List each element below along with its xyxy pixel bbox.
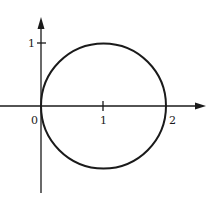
- x-tick-label-2: 2: [169, 114, 176, 127]
- x-tick-label-1: 1: [100, 114, 107, 127]
- x-axis-arrow-icon: [195, 103, 206, 110]
- origin-label: 0: [31, 114, 38, 127]
- circle-diagram: 1 0 1 2: [0, 0, 209, 201]
- y-axis-arrow-icon: [38, 17, 45, 29]
- y-tick-label-1: 1: [28, 37, 35, 50]
